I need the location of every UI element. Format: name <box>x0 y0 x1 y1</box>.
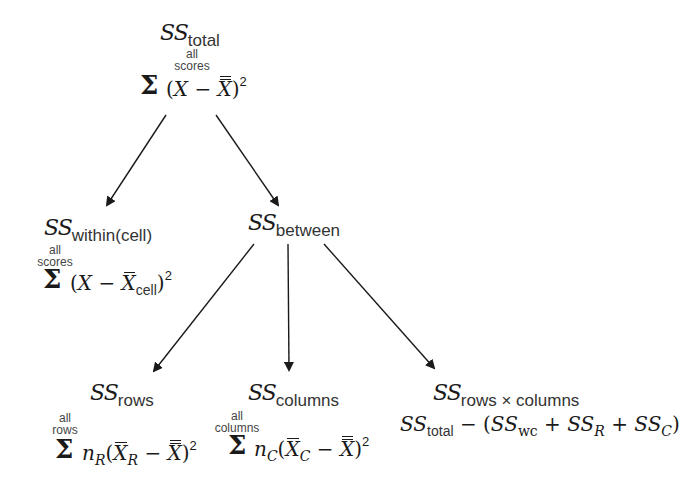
ss-within-sigma: Σ <box>43 264 61 294</box>
node-ss-between: SSbetween <box>248 210 340 235</box>
ss-rows-sigma: Σ <box>55 434 73 464</box>
ss-rows-formula: nR(XR − X)2 <box>82 440 197 465</box>
ss-columns-sigma: Σ <box>228 430 246 460</box>
ss-interaction-label: SSrows × columns <box>433 380 579 405</box>
ss-columns-formula: nC(XC − X)2 <box>254 436 369 461</box>
ss-total-label: SStotal <box>160 20 220 45</box>
ss-total-formula: (X − X)2 <box>166 76 247 101</box>
ss-within-label: SSwithin(cell) <box>44 215 152 240</box>
node-ss-total: SStotal <box>160 20 220 45</box>
node-ss-columns: SScolumns <box>248 380 339 405</box>
ss-total-limit: all scores <box>162 48 222 72</box>
node-ss-interaction: SSrows × columns <box>433 380 579 405</box>
ss-interaction-formula: SStotal − (SSwc + SSR + SSC) <box>400 412 680 436</box>
ss-columns-label: SScolumns <box>248 380 339 405</box>
arrow-between-to-rows <box>154 244 254 371</box>
ss-rows-limit: all rows <box>50 412 80 436</box>
node-ss-within: SSwithin(cell) <box>44 215 152 240</box>
ss-between-label: SSbetween <box>248 210 340 235</box>
arrow-between-to-columns <box>288 244 289 370</box>
arrow-between-to-interaction <box>324 244 434 368</box>
ss-total-sigma: Σ <box>140 70 158 100</box>
node-ss-rows: SSrows <box>90 380 154 405</box>
ss-rows-label: SSrows <box>90 380 154 405</box>
ss-within-formula: (X − Xcell)2 <box>70 270 172 295</box>
arrow-total-to-between <box>216 115 278 205</box>
arrow-total-to-within <box>107 115 166 205</box>
